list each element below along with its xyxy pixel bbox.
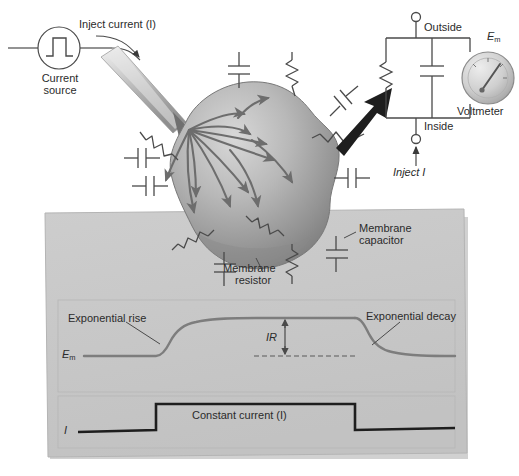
voltmeter-label: Voltmeter (457, 105, 503, 117)
exponential-rise-label: Exponential rise (68, 312, 146, 324)
capacitor-plates-icon (420, 66, 444, 76)
current-source-symbol (8, 27, 112, 69)
membrane-resistor-label-line1: Membrane (223, 262, 276, 274)
ir-amplitude-label: IR (266, 331, 277, 343)
resistor-zigzag-icon (380, 62, 392, 88)
terminal-node-icon (412, 135, 421, 144)
capacitor-plates-icon (124, 148, 160, 168)
capacitor-plates-icon (334, 168, 370, 188)
membrane-capacitor-label-line1: Membrane (359, 222, 412, 234)
figure-root: Current source Inject current (I) Outsid… (0, 0, 519, 476)
graph-em-axis-label: Em (62, 348, 76, 362)
outside-label: Outside (424, 21, 462, 33)
terminal-node-icon (412, 13, 421, 22)
inside-label: Inside (424, 120, 453, 132)
circuit-inject-label: Inject I (393, 166, 425, 178)
micropipette-electrode-icon (101, 46, 190, 137)
current-source-label-line1: Current (42, 72, 79, 84)
circuit-em-subscript: m (494, 35, 500, 44)
capacitor-plates-icon (330, 86, 358, 116)
equivalent-circuit (380, 13, 470, 167)
membrane-resistor-label-line2: resistor (235, 274, 271, 286)
current-source-label: Current source (31, 72, 89, 97)
membrane-capacitor-label-line2: capacitor (359, 234, 404, 246)
membrane-resistor-label: Membrane resistor (223, 262, 309, 287)
circuit-em-label: Em (487, 30, 501, 44)
inject-current-label: Inject current (I) (79, 18, 156, 30)
graph-current-axis-label: I (64, 424, 67, 436)
membrane-capacitor-label: Membrane capacitor (359, 222, 451, 247)
graph-em-subscript: m (69, 353, 75, 362)
thick-arrow-icon (336, 88, 392, 156)
constant-current-label: Constant current (I) (192, 409, 287, 421)
capacitor-plates-icon (132, 176, 168, 196)
analog-gauge-icon (462, 52, 514, 104)
resistor-zigzag-icon (286, 52, 298, 96)
current-source-label-line2: source (43, 84, 76, 96)
exponential-decay-label: Exponential decay (366, 310, 456, 322)
